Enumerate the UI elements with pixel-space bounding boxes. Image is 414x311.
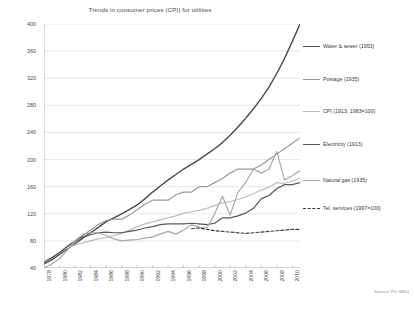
- legend-label-5: Tel. services (1997=100): [323, 206, 381, 211]
- tick-label-x-6: 1990: [139, 270, 145, 282]
- tick-label-x-4: 1986: [108, 270, 114, 282]
- legend-item-1[interactable]: Postage (1935): [303, 77, 359, 82]
- tick-label-y-9: 40: [30, 265, 36, 271]
- series-line-5: [191, 228, 300, 233]
- legend-label-4: Natural gas (1935): [323, 178, 367, 183]
- tick-label-y-1: 360: [27, 48, 36, 54]
- tick-label-y-0: 400: [27, 21, 36, 27]
- legend-swatch-line-icon: [303, 180, 320, 181]
- chart-title: Trends in consumer prices (CPI) for util…: [0, 6, 300, 13]
- legend-item-3[interactable]: Electricity (1913): [303, 142, 362, 147]
- tick-label-x-8: 1994: [170, 270, 176, 282]
- tick-label-y-5: 200: [27, 157, 36, 163]
- legend-label-0: Water & sewer (1953): [323, 44, 374, 49]
- tick-label-x-12: 2002: [232, 270, 238, 282]
- series-line-1: [44, 138, 300, 263]
- tick-label-x-15: 2008: [279, 270, 285, 282]
- series-line-4: [44, 151, 300, 268]
- legend-item-5[interactable]: Tel. services (1997=100): [303, 206, 381, 211]
- tick-label-x-5: 1988: [124, 270, 130, 282]
- tick-label-x-13: 2004: [248, 270, 254, 282]
- legend-swatch-line-icon: [303, 79, 320, 80]
- chart-plot-svg: [44, 24, 300, 268]
- legend-swatch-line-icon: [303, 208, 320, 209]
- legend-item-2[interactable]: CPI (1913, 1983=100): [303, 109, 375, 114]
- x-axis: 1978198019821984198619881990199219941996…: [44, 270, 300, 304]
- tick-label-y-2: 320: [27, 75, 36, 81]
- tick-label-y-4: 240: [27, 129, 36, 135]
- tick-label-y-3: 280: [27, 102, 36, 108]
- source-note: Source: PU-MSU: [374, 289, 409, 294]
- tick-label-y-6: 160: [27, 184, 36, 190]
- tick-label-y-8: 80: [30, 238, 36, 244]
- legend-label-2: CPI (1913, 1983=100): [323, 109, 375, 114]
- tick-label-x-2: 1982: [77, 270, 83, 282]
- plot-area: [44, 24, 300, 268]
- tick-label-y-7: 120: [27, 211, 36, 217]
- tick-label-x-7: 1992: [155, 270, 161, 282]
- legend-swatch-line-icon: [303, 46, 320, 47]
- tick-label-x-9: 1996: [186, 270, 192, 282]
- legend-swatch-line-icon: [303, 144, 320, 145]
- tick-label-x-0: 1978: [46, 270, 52, 282]
- y-axis: 4003603202802402001601208040: [0, 24, 40, 268]
- tick-label-x-1: 1980: [62, 270, 68, 282]
- tick-label-x-16: 2010: [294, 270, 300, 282]
- series-line-0: [44, 24, 300, 264]
- legend-item-4[interactable]: Natural gas (1935): [303, 178, 367, 183]
- series-line-2: [44, 178, 300, 261]
- legend-item-0[interactable]: Water & sewer (1953): [303, 44, 374, 49]
- tick-label-x-11: 2000: [217, 270, 223, 282]
- chart-screenshot: Trends in consumer prices (CPI) for util…: [0, 0, 414, 311]
- tick-label-x-14: 2006: [263, 270, 269, 282]
- legend-swatch-line-icon: [303, 111, 320, 112]
- tick-label-x-10: 1998: [201, 270, 207, 282]
- tick-label-x-3: 1984: [93, 270, 99, 282]
- legend-label-3: Electricity (1913): [323, 142, 362, 147]
- series-line-3: [44, 183, 300, 263]
- legend-label-1: Postage (1935): [323, 77, 359, 82]
